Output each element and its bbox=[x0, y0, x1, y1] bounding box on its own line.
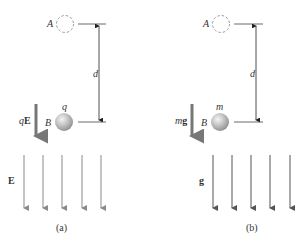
mass-particle bbox=[211, 113, 229, 131]
caption-a: (a) bbox=[56, 223, 67, 233]
point-a-label: A bbox=[47, 19, 53, 29]
mass-label: m bbox=[216, 102, 223, 112]
panel-b bbox=[192, 16, 290, 209]
distance-label: d bbox=[250, 69, 255, 79]
distance-label: d bbox=[93, 69, 98, 79]
electric-field-lines bbox=[24, 155, 101, 208]
point-b-label: B bbox=[45, 118, 51, 128]
caption-b: (b) bbox=[246, 223, 258, 233]
electric-field-label: E bbox=[8, 176, 15, 186]
initial-position-a bbox=[57, 16, 74, 33]
point-a-label: A bbox=[203, 19, 209, 29]
gravity-force-label: mg bbox=[175, 116, 187, 126]
gravitational-field-label: g bbox=[199, 176, 204, 186]
gravitational-field-lines bbox=[213, 155, 290, 208]
initial-position-b bbox=[213, 16, 230, 33]
point-b-label: B bbox=[201, 118, 207, 128]
charged-particle bbox=[55, 113, 73, 131]
electric-force-label: qE bbox=[19, 116, 31, 126]
charge-label: q bbox=[62, 102, 67, 112]
